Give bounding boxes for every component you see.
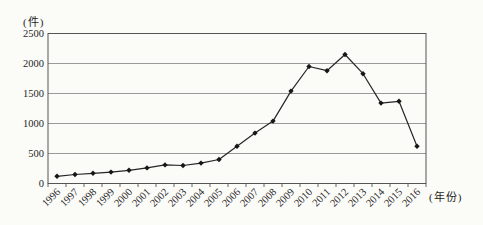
x-tick-label: 2008 [256,186,279,209]
data-point-marker [54,174,59,179]
y-tick-label: 0 [39,178,44,189]
x-tick-label: 1999 [94,186,117,209]
data-point-marker [198,160,203,165]
x-tick-label: 2002 [148,186,171,209]
data-point-marker [126,168,131,173]
x-axis-unit-label: (年份) [429,188,462,204]
data-point-marker [378,100,383,105]
x-tick-label: 2014 [364,186,387,209]
y-axis-unit-label: (件) [23,13,44,29]
line-chart-svg: 0500100015002000250019961997199819992000… [0,0,483,225]
x-tick-label: 2009 [274,186,297,209]
x-tick-label: 2011 [310,186,332,208]
x-tick-label: 2006 [220,186,243,209]
x-tick-label: 2001 [130,186,153,209]
data-point-marker [162,162,167,167]
data-point-marker [396,99,401,104]
y-tick-label: 1000 [23,118,44,129]
screenshot-root: 0500100015002000250019961997199819992000… [0,0,483,225]
x-tick-label: 2015 [382,186,405,209]
x-tick-label: 2016 [400,186,423,209]
x-tick-label: 2003 [166,186,189,209]
x-tick-label: 2004 [184,186,207,209]
data-point-marker [414,144,419,149]
data-point-marker [180,163,185,168]
x-tick-label: 1997 [58,186,81,209]
x-tick-label: 2013 [346,186,369,209]
plot-border [48,34,426,184]
x-tick-label: 1998 [76,186,99,209]
x-tick-label: 2010 [292,186,315,209]
y-tick-label: 500 [28,148,44,159]
line-chart-figure: 0500100015002000250019961997199819992000… [0,0,483,225]
x-tick-label: 2012 [328,186,351,209]
data-point-marker [72,172,77,177]
y-tick-label: 1500 [23,88,44,99]
data-point-marker [144,165,149,170]
data-point-marker [90,171,95,176]
data-point-marker [108,169,113,174]
x-tick-label: 2000 [112,186,135,209]
x-tick-label: 2007 [238,186,261,209]
x-tick-label: 1996 [40,186,63,209]
y-tick-label: 2500 [23,28,44,39]
x-tick-label: 2005 [202,186,225,209]
y-tick-label: 2000 [23,58,44,69]
